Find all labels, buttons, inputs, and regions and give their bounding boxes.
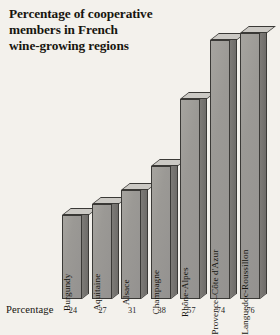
bar-value-label: 27 bbox=[98, 306, 106, 315]
value-axis-row: Percentage 24273138577476 bbox=[0, 300, 280, 327]
bar-value-label: 24 bbox=[69, 306, 77, 315]
bar-rh-ne-alpes: Rhône-Alpes bbox=[180, 99, 200, 299]
bar-front-face bbox=[240, 33, 260, 299]
bar-value-label: 31 bbox=[128, 306, 136, 315]
bar-side-face bbox=[260, 28, 267, 299]
bar-alsace: Alsace bbox=[121, 190, 141, 299]
bar-champagne: Champagne bbox=[151, 166, 171, 299]
bar-side-face bbox=[171, 161, 178, 299]
bar-languedoc-roussillon: Languedoc-Roussillon bbox=[240, 33, 260, 299]
bar-top-face bbox=[240, 26, 276, 33]
bar-front-face bbox=[121, 190, 141, 299]
bar-side-face bbox=[82, 210, 89, 299]
bar-value-label: 74 bbox=[217, 306, 225, 315]
bar-side-face bbox=[141, 185, 148, 299]
bar-burgundy: Burgundy bbox=[62, 215, 82, 299]
bar-front-face bbox=[180, 99, 200, 299]
bar-aquitaine: Aquitaine bbox=[92, 204, 112, 299]
plot-area: BurgundyAquitaineAlsaceChampagneRhône-Al… bbox=[0, 0, 280, 300]
bar-side-face bbox=[200, 94, 207, 299]
bar-side-face bbox=[112, 199, 119, 299]
bar-value-label: 38 bbox=[158, 306, 166, 315]
bar-value-label: 76 bbox=[246, 306, 254, 315]
bar-front-face bbox=[151, 166, 171, 299]
bar-front-face bbox=[62, 215, 82, 299]
bar-front-face bbox=[92, 204, 112, 299]
bar-provence-c-te-d-azur: Provence–Côte d'Azur bbox=[210, 40, 230, 299]
bar-front-face bbox=[210, 40, 230, 299]
bar-side-face bbox=[230, 35, 237, 299]
bar-value-label: 57 bbox=[187, 306, 195, 315]
percentage-axis-label: Percentage bbox=[6, 304, 53, 315]
